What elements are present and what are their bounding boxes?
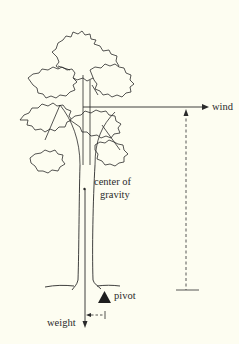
moment-arm-arrowhead-icon: [86, 313, 91, 317]
lever-arm-arrowhead-icon: [184, 109, 189, 116]
weight-arrowhead-icon: [83, 321, 88, 328]
center-of-gravity-label-line1: center of: [94, 177, 131, 187]
center-of-gravity-label-line2: gravity: [100, 190, 130, 200]
weight-label: weight: [47, 318, 76, 328]
wind-arrowhead-icon: [202, 104, 209, 110]
pivot-label: pivot: [114, 291, 136, 301]
wind-label: wind: [212, 102, 233, 112]
pivot-triangle-icon: [98, 291, 111, 303]
tree-crown-icon: [20, 31, 134, 173]
